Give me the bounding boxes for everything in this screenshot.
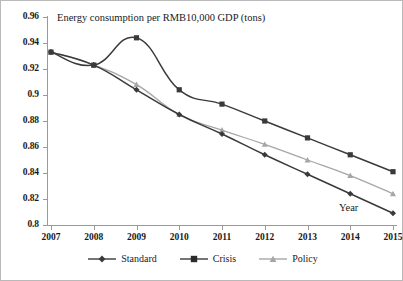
series-crisis xyxy=(48,35,395,174)
data-point-marker xyxy=(219,102,224,107)
y-tick-label: 0.84 xyxy=(23,167,39,177)
plot-area xyxy=(48,17,396,225)
x-tick-label: 2012 xyxy=(245,232,285,242)
data-point-marker xyxy=(134,35,139,40)
data-point-marker xyxy=(348,152,353,157)
legend-marker-square-icon xyxy=(179,254,209,264)
y-tick-label: 0.92 xyxy=(23,63,39,73)
y-tick-label: 0.82 xyxy=(23,193,39,203)
data-point-marker xyxy=(305,135,310,140)
data-point-marker xyxy=(134,82,140,87)
y-tick-mark xyxy=(43,225,48,226)
x-tick-mark xyxy=(179,226,180,230)
data-point-marker xyxy=(91,63,96,68)
x-tick-mark xyxy=(94,226,95,230)
x-tick-mark xyxy=(137,226,138,230)
x-tick-mark xyxy=(308,226,309,230)
x-tick-label: 2008 xyxy=(74,232,114,242)
data-point-marker xyxy=(390,210,396,216)
legend-label-crisis: Crisis xyxy=(213,253,236,264)
series-lines xyxy=(48,17,396,225)
legend-item-crisis[interactable]: Crisis xyxy=(179,253,236,264)
data-point-marker xyxy=(262,118,267,123)
x-tick-label: 2013 xyxy=(288,232,328,242)
x-tick-label: 2007 xyxy=(31,232,71,242)
legend-item-policy[interactable]: Policy xyxy=(258,253,318,264)
x-tick-mark xyxy=(393,226,394,230)
series-line xyxy=(51,52,393,194)
data-point-marker xyxy=(48,50,53,55)
data-point-marker xyxy=(390,169,395,174)
legend-marker-triangle-icon xyxy=(258,254,288,264)
x-tick-label: 2010 xyxy=(159,232,199,242)
y-tick-label: 0.8 xyxy=(27,219,39,229)
legend-label-standard: Standard xyxy=(121,253,157,264)
legend-label-policy: Policy xyxy=(292,253,318,264)
y-tick-label: 0.9 xyxy=(27,89,39,99)
x-tick-mark xyxy=(265,226,266,230)
chart-container: Energy consumption per RMB10,000 GDP (to… xyxy=(0,0,403,281)
x-tick-label: 2014 xyxy=(330,232,370,242)
x-tick-mark xyxy=(222,226,223,230)
series-standard xyxy=(48,49,396,216)
legend-marker-diamond-icon xyxy=(87,254,117,264)
data-point-marker xyxy=(262,152,268,158)
data-point-marker xyxy=(305,171,311,177)
x-tick-mark xyxy=(51,226,52,230)
x-tick-mark xyxy=(350,226,351,230)
y-tick-label: 0.86 xyxy=(23,141,39,151)
data-point-marker xyxy=(177,87,182,92)
data-point-marker xyxy=(347,191,353,197)
data-point-marker xyxy=(134,87,140,93)
y-tick-label: 0.88 xyxy=(23,115,39,125)
y-tick-label: 0.96 xyxy=(23,11,39,21)
series-policy xyxy=(48,49,396,196)
chart-legend: Standard Crisis Policy xyxy=(1,253,403,264)
x-tick-label: 2011 xyxy=(202,232,242,242)
x-tick-label: 2015 xyxy=(373,232,403,242)
legend-item-standard[interactable]: Standard xyxy=(87,253,157,264)
x-tick-label: 2009 xyxy=(117,232,157,242)
y-tick-label: 0.94 xyxy=(23,37,39,47)
